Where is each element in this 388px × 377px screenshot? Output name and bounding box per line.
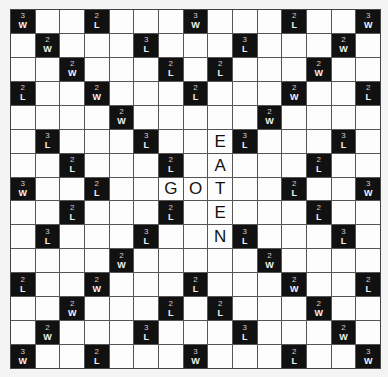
board-cell-empty[interactable] — [134, 249, 158, 272]
board-cell-empty[interactable] — [258, 201, 282, 224]
board-cell-empty[interactable] — [134, 297, 158, 320]
premium-square-2l[interactable]: 2L — [307, 154, 331, 177]
premium-square-3l[interactable]: 3L — [233, 225, 257, 248]
board-cell-empty[interactable] — [159, 273, 183, 296]
board-cell-empty[interactable] — [233, 58, 257, 81]
premium-square-3l[interactable]: 3L — [233, 321, 257, 344]
board-cell-empty[interactable] — [110, 297, 134, 320]
board-cell-empty[interactable] — [356, 297, 380, 320]
premium-square-2l[interactable]: 2L — [208, 297, 232, 320]
board-cell-empty[interactable] — [110, 58, 134, 81]
board-cell-empty[interactable] — [258, 178, 282, 201]
board-cell-empty[interactable] — [332, 201, 356, 224]
premium-square-2l[interactable]: 2L — [159, 58, 183, 81]
premium-square-3l[interactable]: 3L — [233, 130, 257, 153]
premium-square-2l[interactable]: 2L — [85, 345, 109, 368]
board-cell-empty[interactable] — [356, 201, 380, 224]
premium-square-2l[interactable]: 2L — [307, 201, 331, 224]
premium-square-2l[interactable]: 2L — [184, 82, 208, 105]
board-cell-empty[interactable] — [134, 82, 158, 105]
board-cell-empty[interactable] — [110, 34, 134, 57]
board-cell-empty[interactable] — [36, 249, 60, 272]
board-cell-empty[interactable] — [258, 58, 282, 81]
board-cell-empty[interactable] — [184, 106, 208, 129]
premium-square-2w[interactable]: 2W — [85, 273, 109, 296]
board-cell-empty[interactable] — [110, 130, 134, 153]
premium-square-2l[interactable]: 2L — [159, 154, 183, 177]
board-cell-empty[interactable] — [85, 225, 109, 248]
board-cell-empty[interactable] — [282, 154, 306, 177]
board-cell-empty[interactable] — [356, 130, 380, 153]
board-cell-empty[interactable] — [258, 225, 282, 248]
board-cell-empty[interactable] — [36, 154, 60, 177]
premium-square-2w[interactable]: 2W — [60, 58, 84, 81]
premium-square-2w[interactable]: 2W — [282, 273, 306, 296]
board-cell-empty[interactable] — [258, 273, 282, 296]
board-cell-empty[interactable] — [307, 273, 331, 296]
board-cell-empty[interactable] — [110, 201, 134, 224]
board-cell-empty[interactable] — [258, 321, 282, 344]
board-cell-empty[interactable] — [208, 82, 232, 105]
premium-square-2l[interactable]: 2L — [282, 178, 306, 201]
premium-square-2w[interactable]: 2W — [282, 82, 306, 105]
board-cell-empty[interactable] — [332, 154, 356, 177]
board-cell-empty[interactable] — [282, 130, 306, 153]
board-cell-empty[interactable] — [258, 34, 282, 57]
premium-square-3w[interactable]: 3W — [11, 10, 35, 33]
board-cell-empty[interactable] — [184, 297, 208, 320]
board-cell-empty[interactable] — [258, 82, 282, 105]
board-cell-empty[interactable] — [233, 10, 257, 33]
board-cell-empty[interactable] — [307, 10, 331, 33]
premium-square-2l[interactable]: 2L — [11, 273, 35, 296]
board-cell-empty[interactable] — [332, 345, 356, 368]
premium-square-3w[interactable]: 3W — [184, 10, 208, 33]
board-cell-empty[interactable] — [134, 154, 158, 177]
board-cell-empty[interactable] — [184, 225, 208, 248]
board-cell-empty[interactable] — [11, 106, 35, 129]
premium-square-2l[interactable]: 2L — [208, 58, 232, 81]
premium-square-2w[interactable]: 2W — [36, 321, 60, 344]
board-cell-empty[interactable] — [356, 34, 380, 57]
board-cell-empty[interactable] — [159, 249, 183, 272]
premium-square-3l[interactable]: 3L — [134, 321, 158, 344]
premium-square-2l[interactable]: 2L — [159, 297, 183, 320]
premium-square-2l[interactable]: 2L — [184, 273, 208, 296]
premium-square-2l[interactable]: 2L — [282, 10, 306, 33]
board-cell-empty[interactable] — [208, 249, 232, 272]
board-cell-empty[interactable] — [11, 249, 35, 272]
board-cell-empty[interactable] — [36, 10, 60, 33]
board-cell-empty[interactable] — [233, 82, 257, 105]
board-cell-empty[interactable] — [110, 225, 134, 248]
board-cell-empty[interactable] — [159, 10, 183, 33]
board-cell-empty[interactable] — [85, 321, 109, 344]
board-cell-empty[interactable] — [332, 106, 356, 129]
board-cell-empty[interactable] — [208, 273, 232, 296]
board-cell-empty[interactable] — [36, 273, 60, 296]
board-cell-empty[interactable] — [36, 178, 60, 201]
board-cell-empty[interactable] — [36, 201, 60, 224]
board-cell-empty[interactable] — [36, 106, 60, 129]
board-cell-empty[interactable] — [307, 34, 331, 57]
board-cell-empty[interactable] — [233, 178, 257, 201]
board-cell-empty[interactable] — [11, 321, 35, 344]
board-cell-empty[interactable] — [85, 201, 109, 224]
board-cell-empty[interactable] — [110, 82, 134, 105]
board-cell-empty[interactable] — [332, 178, 356, 201]
board-cell-empty[interactable] — [208, 34, 232, 57]
premium-square-2w[interactable]: 2W — [307, 297, 331, 320]
board-cell-empty[interactable] — [184, 58, 208, 81]
board-cell-empty[interactable] — [60, 130, 84, 153]
board-cell-empty[interactable] — [110, 273, 134, 296]
board-cell-empty[interactable] — [60, 34, 84, 57]
board-cell-empty[interactable] — [60, 82, 84, 105]
board-cell-empty[interactable] — [134, 58, 158, 81]
board-cell-empty[interactable] — [110, 178, 134, 201]
premium-square-2l[interactable]: 2L — [60, 201, 84, 224]
board-cell-empty[interactable] — [110, 321, 134, 344]
board-cell-empty[interactable] — [11, 225, 35, 248]
board-cell-empty[interactable] — [60, 321, 84, 344]
board-cell-empty[interactable] — [356, 225, 380, 248]
board-cell-empty[interactable] — [60, 10, 84, 33]
premium-square-2w[interactable]: 2W — [85, 82, 109, 105]
board-cell-empty[interactable] — [332, 297, 356, 320]
